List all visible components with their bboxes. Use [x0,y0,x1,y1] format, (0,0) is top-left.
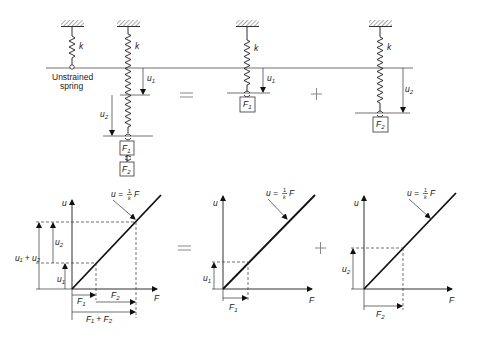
svg-text:F: F [154,293,160,303]
spring-label: spring [60,81,83,91]
svg-text:F: F [430,188,436,198]
svg-text:u: u [213,198,218,208]
svg-text:1: 1 [128,188,131,194]
u-equals-F-over-k-line [223,195,315,289]
svg-text:F: F [134,189,140,199]
stiffness-label: k [254,43,259,53]
unstrained-spring: k Unstrained spring [52,20,93,91]
combined-load-spring: k u1 u2 F1 F2 [100,20,155,176]
graph-F2: u F u2 F2 u = 1 k F [342,187,456,320]
u-equals-F-over-k-line [72,195,161,289]
spring-end-icon [70,65,74,69]
u2-label: u2 [100,109,109,120]
svg-text:u =: u = [111,189,123,199]
svg-text:F2: F2 [111,290,120,301]
svg-text:F: F [309,295,315,305]
ceiling-support-icon [236,20,259,26]
u1-label: u1 [147,73,155,84]
svg-text:u: u [354,198,359,208]
svg-text:F: F [449,295,455,305]
u-equals-F-over-k-line [364,193,456,289]
svg-text:F1: F1 [229,302,238,313]
stiffness-label: k [135,41,140,51]
stiffness-label: k [387,42,392,52]
svg-text:F: F [289,188,295,198]
u1-label: u1 [267,73,275,84]
F1-spring: k u1 F1 [227,20,275,112]
svg-text:u2: u2 [342,264,351,275]
equals-sign [180,93,193,97]
svg-text:k: k [128,195,131,201]
graph-combined: u F u2 u₁ + u₂ u1 F1 F2 F₁ + F₂ u = 1 k … [15,188,161,324]
u2-label: u2 [405,84,414,95]
svg-text:F2: F2 [376,309,385,320]
graph-F1: u F u1 F1 u = 1 k F [203,187,315,313]
plus-sign [311,88,322,100]
svg-text:k: k [283,194,286,200]
svg-text:u =: u = [266,188,278,198]
svg-text:k: k [424,194,427,200]
F2-spring: k u2 F2 [355,20,414,132]
svg-text:1: 1 [424,187,427,193]
ceiling-support-icon [61,20,84,26]
svg-text:u1: u1 [57,274,65,285]
svg-text:u2: u2 [55,237,64,248]
svg-text:u1: u1 [203,273,211,284]
ceiling-support-icon [369,20,392,26]
svg-text:u₁ + u₂: u₁ + u₂ [15,253,41,263]
superposition-diagram: k Unstrained spring k u1 u2 F1 F2 [0,0,480,337]
equals-sign [178,246,191,250]
svg-text:F1: F1 [77,296,86,307]
svg-text:u: u [62,198,67,208]
plus-sign [315,242,326,254]
svg-text:1: 1 [283,187,286,193]
ceiling-support-icon [117,20,140,26]
stiffness-label: k [79,41,84,51]
svg-text:F₁ + F₂: F₁ + F₂ [86,314,113,324]
svg-text:u =: u = [407,188,419,198]
